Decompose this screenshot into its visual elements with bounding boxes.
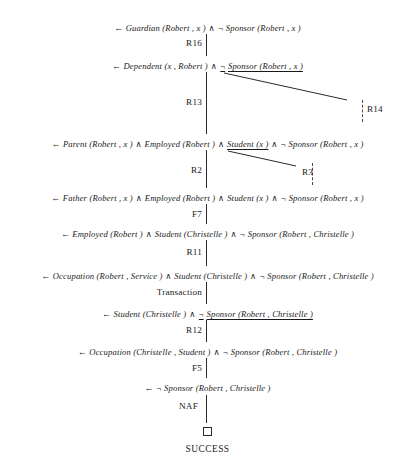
goal-2-selected-sponsor: Sponsor (Robert , x ) — [228, 61, 303, 71]
goal-4-arrow: ← — [51, 193, 60, 203]
goal-1-arrow: ← — [114, 23, 123, 33]
goal-node-7: ← Student (Christelle ) ∧ ¬ Sponsor (Rob… — [0, 308, 415, 321]
edge-n3-n4 — [206, 150, 207, 188]
goal-7-arrow: ← — [102, 309, 111, 319]
goal-6-arrow: ← — [41, 271, 50, 281]
goal-2-not-1: ¬ — [220, 62, 226, 71]
goal-8-atom-occupation: Occupation (Christelle , Student ) — [89, 347, 210, 357]
success-label: SUCCESS — [0, 444, 415, 454]
goal-4-atom-employed: Employed (Robert ) — [145, 193, 215, 203]
goal-6-atom-occupation: Occupation (Robert , Service ) — [53, 271, 163, 281]
goal-1-atom-sponsor: Sponsor (Robert , x ) — [226, 23, 301, 33]
goal-4-and-1: ∧ — [135, 194, 142, 203]
goal-1-not-1: ¬ — [218, 24, 224, 33]
goal-node-1: ← Guardian (Robert , x ) ∧ ¬ Sponsor (Ro… — [0, 22, 415, 35]
goal-node-9: ← ¬ Sponsor (Robert , Christelle ) — [0, 382, 415, 395]
goal-7-selected-sponsor: Sponsor (Robert , Christelle ) — [206, 309, 312, 319]
goal-4-not-1: ¬ — [280, 194, 286, 203]
edge-label-r2: R2 — [166, 165, 202, 176]
edge-n8-n9 — [206, 358, 207, 378]
goal-7-not-1: ¬ — [198, 310, 204, 319]
goal-9-arrow: ← — [144, 383, 153, 393]
goal-3-atom-employed: Employed (Robert ) — [145, 139, 215, 149]
goal-3-not-1: ¬ — [280, 140, 286, 149]
goal-4-atom-sponsor: Sponsor (Robert , x ) — [289, 193, 364, 203]
goal-4-and-3: ∧ — [271, 194, 278, 203]
edge-label-f5: F5 — [166, 363, 202, 374]
goal-4-and-2: ∧ — [218, 194, 225, 203]
goal-1-atom-guardian: Guardian (Robert , x ) — [126, 23, 206, 33]
edge-label-r16: R16 — [166, 38, 202, 49]
goal-node-2: ← Dependent (x , Robert ) ∧ ¬ Sponsor (R… — [0, 60, 415, 73]
branch-edge-r14 — [224, 73, 347, 100]
goal-node-5: ← Employed (Robert ) ∧ Student (Christel… — [0, 228, 415, 241]
goal-3-atom-parent: Parent (Robert , x ) — [63, 139, 133, 149]
sldnf-derivation-tree: ← Guardian (Robert , x ) ∧ ¬ Sponsor (Ro… — [0, 0, 415, 471]
goal-5-atom-employed: Employed (Robert ) — [72, 229, 142, 239]
edge-n7-n8 — [206, 320, 207, 342]
edge-label-transaction: Transaction — [126, 287, 202, 298]
goal-6-atom-student: Student (Christelle ) — [174, 271, 247, 281]
goal-5-and-2: ∧ — [230, 230, 237, 239]
goal-8-arrow: ← — [78, 347, 87, 357]
goal-node-8: ← Occupation (Christelle , Student ) ∧ ¬… — [0, 346, 415, 359]
goal-3-and-1: ∧ — [135, 140, 142, 149]
goal-5-arrow: ← — [61, 229, 70, 239]
goal-6-atom-sponsor: Sponsor (Robert , Christelle ) — [267, 271, 373, 281]
goal-3-selected-student: Student (x ) — [227, 139, 268, 149]
goal-node-4: ← Father (Robert , x ) ∧ Employed (Rober… — [0, 192, 415, 205]
goal-5-atom-sponsor: Sponsor (Robert , Christelle ) — [248, 229, 354, 239]
goal-1-and-1: ∧ — [208, 24, 215, 33]
goal-8-and-1: ∧ — [213, 348, 220, 357]
branch-edge-r3 — [228, 151, 296, 166]
goal-2-atom-dependent: Dependent (x , Robert ) — [124, 61, 208, 71]
edge-label-f7: F7 — [166, 209, 202, 220]
goal-5-atom-student: Student (Christelle ) — [155, 229, 228, 239]
goal-3-and-3: ∧ — [271, 140, 278, 149]
goal-3-arrow: ← — [51, 139, 60, 149]
edge-n2-n3 — [206, 72, 207, 134]
goal-2-arrow: ← — [112, 61, 121, 71]
edge-label-r12: R12 — [166, 325, 202, 336]
goal-6-and-2: ∧ — [250, 272, 257, 281]
edge-label-naf: NAF — [162, 401, 198, 412]
goal-6-not-1: ¬ — [259, 272, 265, 281]
goal-node-6: ← Occupation (Robert , Service ) ∧ Stude… — [0, 270, 415, 283]
goal-9-not-1: ¬ — [156, 384, 162, 393]
goal-node-3: ← Parent (Robert , x ) ∧ Employed (Rober… — [0, 138, 415, 151]
edge-label-r14: R14 — [367, 104, 407, 115]
goal-5-not-1: ¬ — [240, 230, 246, 239]
edge-n4-n5 — [206, 204, 207, 224]
edge-label-r3: R3 — [287, 167, 313, 178]
edge-n6-n7 — [206, 282, 207, 304]
edge-label-r11: R11 — [166, 247, 202, 258]
goal-8-atom-sponsor: Sponsor (Robert , Christelle ) — [231, 347, 337, 357]
goal-3-and-2: ∧ — [217, 140, 224, 149]
goal-8-not-1: ¬ — [223, 348, 229, 357]
edge-n5-n6 — [206, 240, 207, 266]
goal-5-and-1: ∧ — [145, 230, 152, 239]
goal-2-and-1: ∧ — [210, 62, 217, 71]
goal-7-and-1: ∧ — [189, 310, 196, 319]
goal-4-atom-father: Father (Robert , x ) — [63, 193, 133, 203]
failed-branch-stub-r14 — [362, 100, 363, 122]
goal-6-and-1: ∧ — [165, 272, 172, 281]
goal-4-atom-student: Student (x ) — [227, 193, 268, 203]
goal-7-atom-student: Student (Christelle ) — [114, 309, 187, 319]
edge-n9-empty — [206, 395, 207, 423]
goal-3-atom-sponsor: Sponsor (Robert , x ) — [289, 139, 364, 149]
empty-clause-box — [203, 427, 212, 436]
goal-9-atom-sponsor: Sponsor (Robert , Christelle ) — [164, 383, 270, 393]
edge-n1-n2 — [206, 34, 207, 56]
edge-label-r13: R13 — [166, 97, 202, 108]
